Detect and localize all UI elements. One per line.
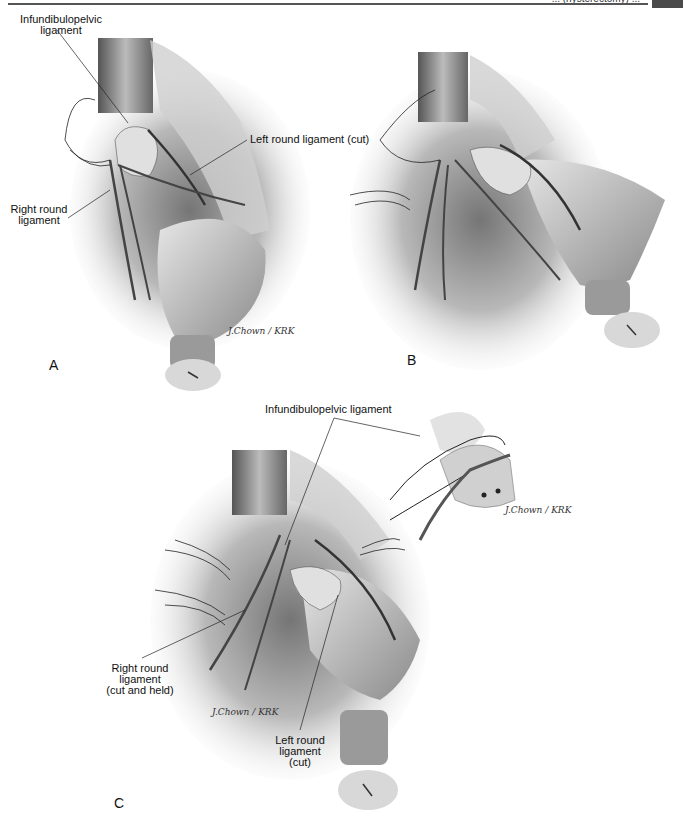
panel-c-inset-signature: J.Chown / KRK — [505, 505, 571, 515]
panel-c-artist-signature: J.Chown / KRK — [212, 707, 278, 717]
panel-a-label-left-round-ligament: Left round ligament (cut) — [250, 134, 369, 145]
panel-c-label-right-round-ligament: Right round ligament (cut and held) — [100, 663, 180, 696]
panel-c-label-infundibulopelvic: Infundibulopelvic ligament — [265, 404, 392, 415]
panel-c-letter: C — [114, 795, 124, 811]
panel-a-artist-signature: J.Chown / KRK — [228, 326, 294, 336]
panel-b-illustration — [350, 52, 665, 370]
panel-b-letter: B — [407, 352, 416, 368]
panel-c-label-left-round-ligament: Left round ligament (cut) — [268, 735, 332, 768]
panel-a-illustration — [57, 30, 310, 391]
panel-a-letter: A — [49, 357, 58, 373]
panel-a-label-infundibulopelvic: Infundibulopelvic ligament — [16, 14, 106, 36]
panel-a-label-right-round-ligament: Right round ligament — [8, 204, 70, 226]
